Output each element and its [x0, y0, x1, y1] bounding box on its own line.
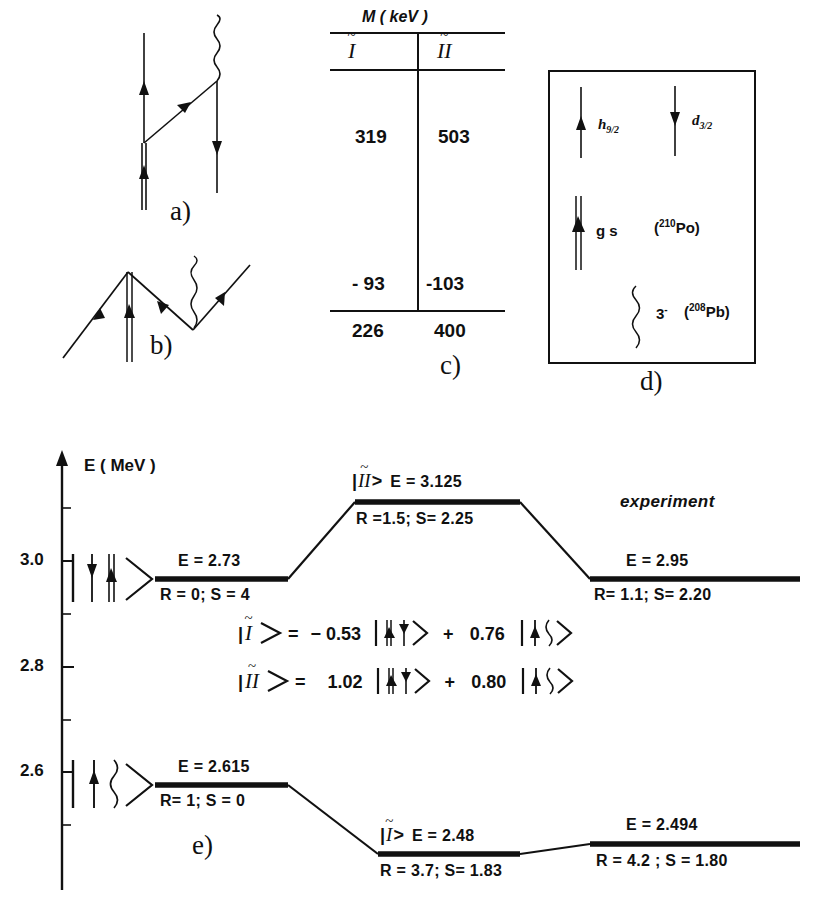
- down-arrow-line-icon: [212, 81, 222, 193]
- table-cell: - 93: [352, 273, 385, 295]
- ket-lower-start: [68, 756, 158, 812]
- angle-bracket-icon: [258, 620, 284, 646]
- ket-upper-start: [68, 550, 158, 606]
- level-params-label: R = 4.2 ; S = 1.80: [596, 852, 728, 870]
- table-cell: 319: [355, 126, 387, 148]
- diagonal-arrow-icon: [144, 81, 217, 143]
- panel-c-col1-header: ~ I: [348, 38, 355, 64]
- legend-label-gs: g s: [596, 222, 618, 239]
- panel-c-table: M ( keV ) ~ I ~ II 319 503 - 93 -103 226: [330, 8, 510, 338]
- ket-up-wavy-icon: [519, 618, 573, 648]
- coefficient-2: 0.80: [471, 672, 506, 692]
- tilde-mark: ~: [348, 27, 356, 44]
- tilde-mark: ~: [385, 813, 393, 830]
- panel-e-label: e): [192, 830, 213, 861]
- wavy-line-icon: [547, 668, 553, 694]
- figure-root: a) b) M ( keV ): [0, 0, 816, 914]
- table-cell: 503: [438, 126, 470, 148]
- panel-a-label: a): [170, 196, 191, 227]
- panel-c-col2-header: ~ II: [437, 38, 452, 64]
- table-cell: 400: [434, 320, 466, 342]
- panel-c-label: c): [440, 350, 461, 381]
- panel-b-label: b): [150, 330, 173, 361]
- ket-up-down-icon: [373, 618, 429, 648]
- panel-c-title: M ( keV ): [362, 8, 428, 26]
- level-energy-label: E = 2.48: [412, 827, 474, 844]
- coefficient-1: − 0.53: [311, 624, 362, 644]
- double-up-arrow-icon: [106, 554, 117, 602]
- level-params-label: R= 1.1; S= 2.20: [594, 586, 711, 604]
- state-label-upper-theory: | ~ II > E = 3.125: [352, 470, 462, 492]
- wavy-line-icon: [214, 15, 220, 81]
- equals-sign: =: [295, 672, 306, 692]
- legend-label-d32: d3/2: [692, 112, 712, 131]
- level-params-label: R =1.5; S= 2.25: [356, 510, 473, 528]
- legend-entry-phonon: [626, 284, 648, 350]
- up-arrow-icon: [89, 760, 99, 808]
- ket-up-down-icon: [375, 666, 431, 696]
- legend-entry-gs: [566, 194, 592, 272]
- wavy-line-icon: [546, 620, 552, 646]
- double-up-arrow-icon: [566, 194, 592, 272]
- experiment-column-label: experiment: [620, 492, 715, 512]
- wavy-line-icon: [111, 760, 118, 808]
- table-cell: -103: [426, 273, 464, 295]
- coefficient-1: 1.02: [328, 672, 363, 692]
- wavy-line-icon: [626, 284, 648, 350]
- panel-d-label: d): [640, 366, 663, 397]
- up-arrow-icon: [530, 620, 540, 646]
- level-energy-label: E = 2.615: [178, 758, 250, 776]
- wavefunction-equation-2: | ~ II = 1.02: [238, 666, 574, 696]
- double-line-particle-icon: [124, 272, 135, 362]
- up-arrow-icon: [568, 84, 594, 160]
- wavefunction-equation-1: | ~ I = − 0.53: [238, 618, 573, 648]
- table-bottom-rule: [330, 310, 505, 312]
- legend-label-phonon: 3-: [656, 304, 668, 322]
- down-arrow-icon: [399, 620, 409, 646]
- up-arrow-icon: [531, 668, 541, 694]
- level-energy-label: E = 2.73: [178, 552, 240, 570]
- legend-entry-d32: [662, 84, 688, 160]
- panel-d-legend-box: h9/2 d3/2 g s (210Po) 3- (208Pb): [548, 70, 756, 364]
- plus-sign: +: [445, 672, 456, 692]
- up-arrow-line-icon: [139, 33, 149, 143]
- table-cell: 226: [352, 320, 384, 342]
- table-vertical-divider: [417, 32, 419, 312]
- ket-up-wavy-icon: [520, 666, 574, 696]
- angle-bracket-icon: [126, 558, 152, 600]
- level-energy-label: E = 2.494: [626, 816, 698, 834]
- tilde-mark: ~: [248, 658, 256, 675]
- tilde-mark: ~: [360, 459, 368, 476]
- double-line-particle-icon: [139, 143, 149, 210]
- legend-entry-h92: [568, 84, 594, 160]
- level-energy-label: E = 3.125: [390, 473, 462, 490]
- level-params-label: R= 1; S = 0: [160, 792, 245, 810]
- panel-e-level-diagram: E ( MeV ) 3.0 2.8 2.6: [0, 430, 816, 914]
- wavy-line-icon: [191, 256, 197, 328]
- coefficient-2: 0.76: [470, 624, 505, 644]
- equals-sign: =: [288, 624, 299, 644]
- angle-bracket-icon: [265, 668, 291, 694]
- level-params-label: R = 3.7; S= 1.83: [380, 862, 502, 880]
- level-energy-label: E = 2.95: [626, 552, 688, 570]
- panel-a-diagram: [95, 15, 275, 215]
- down-arrow-icon: [401, 668, 411, 694]
- tilde-mark: ~: [440, 27, 448, 44]
- down-arrow-icon: [662, 84, 688, 160]
- legend-label-h92: h9/2: [598, 116, 619, 135]
- double-up-arrow-icon: [386, 668, 397, 694]
- down-arrow-icon: [87, 554, 97, 602]
- angle-bracket-icon: [126, 764, 152, 806]
- double-up-arrow-icon: [384, 620, 395, 646]
- level-params-label: R = 0; S = 4: [160, 586, 250, 604]
- plus-sign: +: [443, 624, 454, 644]
- state-label-lower-theory: | ~ I > E = 2.48: [380, 824, 474, 846]
- tilde-mark: ~: [244, 610, 252, 627]
- legend-nucleus-pb: (208Pb): [684, 302, 730, 320]
- legend-nucleus-po: (210Po): [654, 218, 700, 236]
